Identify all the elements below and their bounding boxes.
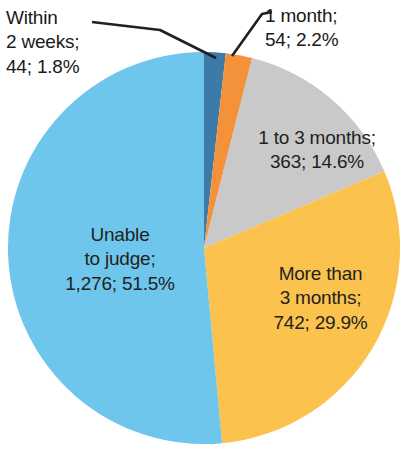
pie-slices-group — [8, 52, 400, 444]
pie-slice-unable-to-judge — [8, 52, 222, 444]
pie-chart-svg — [0, 0, 403, 449]
leader-lines-group — [92, 12, 272, 58]
leader-line-1-month — [232, 12, 272, 56]
pie-chart-figure: Within 2 weeks; 44; 1.8% 1 month; 54; 2.… — [0, 0, 403, 449]
